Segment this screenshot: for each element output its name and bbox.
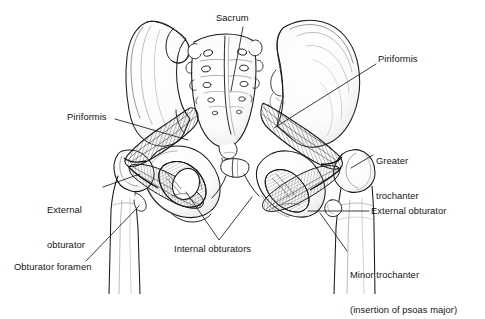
label-obturator-foramen: Obturator foramen (14, 261, 91, 273)
label-internal-obturators: Internal obturators (174, 243, 251, 255)
label-greater-trochanter-line2: trochanter (376, 190, 419, 202)
label-minor-trochanter: Minor trochanter (insertion of psoas maj… (350, 245, 457, 319)
label-sacrum: Sacrum (216, 12, 249, 24)
label-piriformis-right: Piriformis (378, 53, 418, 65)
label-external-obturator-right: External obturator (371, 205, 446, 217)
label-external-obturator-left-line1: External (47, 204, 85, 216)
label-greater-trochanter-line1: Greater (376, 155, 419, 167)
label-piriformis-left: Piriformis (67, 111, 107, 123)
label-minor-trochanter-line1: Minor trochanter (350, 269, 457, 281)
label-minor-trochanter-line2: (insertion of psoas major) (350, 304, 457, 316)
leader-obturator-foramen (86, 206, 139, 261)
leader-minor-trochanter (320, 213, 347, 251)
sacrum (186, 34, 263, 167)
label-external-obturator-left-line2: obturator (47, 239, 85, 251)
